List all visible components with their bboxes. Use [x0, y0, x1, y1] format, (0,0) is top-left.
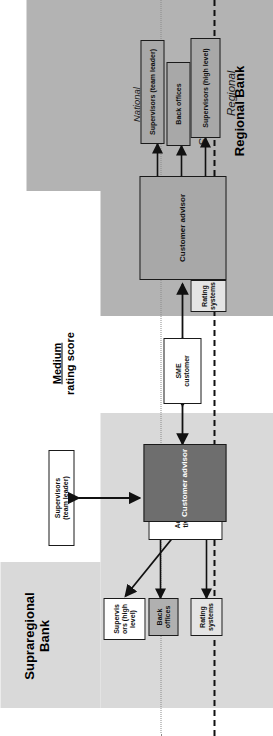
node-sme-customer[interactable]: SME customer [163, 338, 201, 404]
node-back-offices-regional[interactable]: Back offices [166, 62, 190, 146]
node-rating-systems-supraregional[interactable]: Rating systems [190, 598, 222, 636]
diagram-canvas: National District Supraregional Regional… [0, 0, 273, 736]
node-customer-advisor-supraregional[interactable]: Customer advisor [143, 444, 226, 522]
node-supervisors-team-leader-regional[interactable]: Supervisors (team leader) [140, 40, 164, 144]
diagram-stage: National District Supraregional Regional… [0, 0, 273, 736]
node-rating-systems-regional[interactable]: Rating systems [190, 280, 226, 312]
node-supervisors-high-level[interactable]: Supervis ors (high level) [103, 598, 145, 640]
node-customer-advisor-regional[interactable]: Customer advisor [139, 176, 226, 280]
node-back-offices-supraregional[interactable]: Back offices [148, 598, 178, 636]
node-supervisors-high-level-regional[interactable]: Supervisors (high level) [190, 38, 220, 138]
node-supervisors-team-leader-supraregional[interactable]: Supervisors (team leader) [48, 450, 74, 546]
